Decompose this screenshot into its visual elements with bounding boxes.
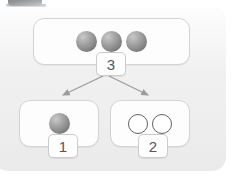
count-badge-top[interactable]: 3 (96, 52, 126, 76)
sphere-icon (76, 31, 97, 52)
corner-tab (8, 0, 42, 6)
count-badge-left[interactable]: 1 (48, 134, 78, 158)
diagram-canvas: 3 1 2 (0, 0, 231, 177)
hollow-circle-icon (152, 114, 172, 134)
sphere-icon (126, 31, 147, 52)
hollow-circle-icon (128, 114, 148, 134)
sphere-icon (49, 113, 70, 134)
count-badge-right[interactable]: 2 (138, 134, 168, 158)
sphere-icon (101, 31, 122, 52)
